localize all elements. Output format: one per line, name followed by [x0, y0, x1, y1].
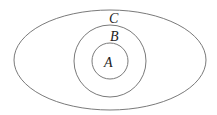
label-b: B: [110, 29, 119, 44]
label-a: A: [103, 55, 113, 70]
label-c: C: [109, 11, 119, 26]
venn-diagram: C B A: [0, 0, 217, 115]
